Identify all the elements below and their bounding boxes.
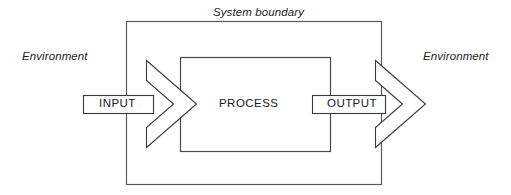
environment-label-right: Environment [423, 51, 489, 63]
system-diagram: System boundary Environment Environment … [0, 0, 511, 195]
input-block-label: INPUT [99, 98, 136, 110]
output-block-label: OUTPUT [327, 98, 377, 110]
system-boundary-label: System boundary [213, 7, 304, 19]
environment-label-left: Environment [22, 51, 88, 63]
process-block-label: PROCESS [219, 98, 278, 110]
